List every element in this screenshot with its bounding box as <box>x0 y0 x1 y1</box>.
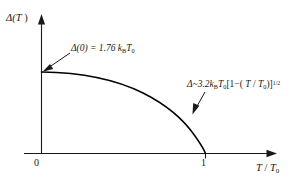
x-tick-label-1: 1 <box>201 158 206 168</box>
y-axis-label: Δ(T ) <box>6 13 28 24</box>
x-axis-label-t0: T <box>270 162 276 173</box>
annotation-sqrt-law: Δ~3.2kBT0[1−( T / T0)]1/2 <box>187 80 280 90</box>
annotation-zero-gap: Δ(0) = 1.76 kBT0 <box>71 44 135 54</box>
y-axis-label-delta: Δ( <box>6 12 16 23</box>
x-tick-label-0: 0 <box>34 158 39 168</box>
plot-canvas <box>0 0 308 181</box>
annotation-sqrt-law-k-sub: B <box>214 83 218 90</box>
y-axis-label-close: ) <box>22 12 28 23</box>
figure-container: Δ(T ) T / T0 0 1 Δ(0) = 1.76 kBT0 Δ~3.2k… <box>0 0 308 181</box>
zero-gap-leader-line <box>48 53 70 68</box>
annotation-sqrt-law-slash: / <box>251 79 258 89</box>
annotation-zero-gap-T-sub: 0 <box>132 47 135 54</box>
x-axis-label-sub0: 0 <box>276 167 279 174</box>
x-axis-label: T / T0 <box>256 163 279 174</box>
annotation-sqrt-law-lead: Δ~3.2 <box>187 79 210 89</box>
annotation-sqrt-law-bracket-open: [1−( <box>226 79 245 89</box>
annotation-zero-gap-delta: Δ(0) = 1.76 <box>71 43 118 53</box>
annotation-sqrt-law-exponent: 1/2 <box>273 80 281 86</box>
annotation-sqrt-law-bracket-close: )] <box>266 79 272 89</box>
x-axis-arrowhead <box>267 150 278 158</box>
y-axis-arrowhead <box>38 14 45 25</box>
gap-curve <box>42 72 206 154</box>
annotation-zero-gap-k-sub: B <box>122 47 126 54</box>
annotation-zero-gap-T: T <box>126 43 131 53</box>
annotation-sqrt-law-T3-sub: 0 <box>263 83 266 90</box>
x-axis-label-slash: / <box>262 162 270 173</box>
annotation-sqrt-law-T-sub: 0 <box>223 83 226 90</box>
